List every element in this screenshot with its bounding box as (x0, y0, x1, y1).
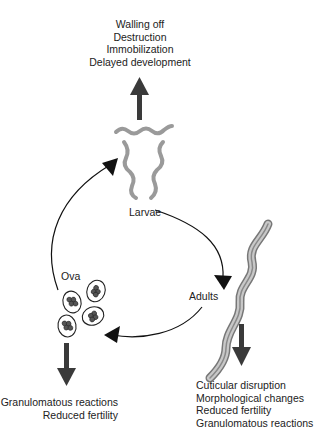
adults-effect: Reduced fertility (196, 404, 313, 417)
larvae-effect: Immobilization (80, 43, 200, 56)
arrowhead-to-adults (214, 275, 232, 290)
larvae-effect: Destruction (80, 31, 200, 44)
adults-effect-arrowhead (232, 347, 251, 366)
arrowhead-to-larvae (102, 158, 118, 176)
larvae-icon (116, 126, 172, 198)
stage-label-adults: Adults (189, 290, 218, 303)
arrowhead-to-ova (104, 326, 120, 343)
adults-effect: Morphological changes (196, 392, 313, 405)
adults-effects-list: Cuticular disruption Morphological chang… (196, 379, 313, 429)
egg (56, 314, 78, 339)
ova-effects-list: Granulomatous reactions Reduced fertilit… (0, 396, 118, 421)
arc-larvae-to-adults (155, 210, 223, 278)
ova-effect: Reduced fertility (0, 409, 118, 422)
ova-effect-arrowhead (57, 368, 76, 386)
adults-effect-arrow-shaft (239, 324, 244, 350)
larvae-effect-arrowhead (130, 77, 149, 95)
larvae-effect: Walling off (80, 18, 200, 31)
adults-effect: Granulomatous reactions (196, 417, 313, 430)
larvae-effects-list: Walling off Destruction Immobilization D… (80, 18, 200, 68)
egg (60, 289, 83, 315)
stage-label-ova: Ova (61, 270, 80, 283)
effect-arrows (57, 77, 251, 386)
ova-effect-arrow-shaft (64, 343, 69, 371)
cycle-arrowheads (102, 158, 232, 343)
larvae-effect-arrow-shaft (137, 92, 142, 120)
arc-adults-to-ova (112, 307, 202, 337)
ova-icon (56, 278, 108, 339)
egg (84, 278, 108, 305)
larvae-effect: Delayed development (80, 56, 200, 69)
egg (80, 304, 107, 328)
ova-effect: Granulomatous reactions (0, 396, 118, 409)
stage-label-larvae: Larvae (129, 206, 161, 219)
adults-effect: Cuticular disruption (196, 379, 313, 392)
